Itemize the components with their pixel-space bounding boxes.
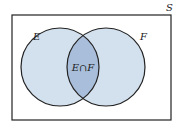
venn-diagram: S E F E∩F <box>0 0 183 129</box>
intersection-label: E∩F <box>71 62 96 73</box>
set-f-label: F <box>139 31 148 42</box>
set-e-label: E <box>32 31 41 42</box>
universe-label: S <box>166 2 173 13</box>
